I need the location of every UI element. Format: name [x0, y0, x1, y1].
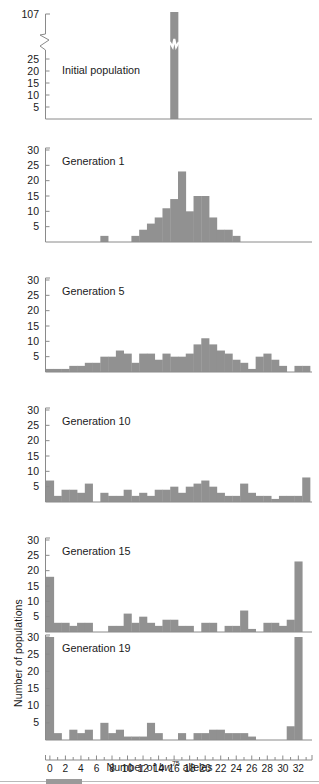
y-tick-label: 30 — [27, 274, 39, 286]
chart-panel-2: 51015202530Generation 5 — [0, 268, 319, 394]
y-tick-label: 25 — [27, 289, 39, 301]
bar — [201, 338, 209, 372]
bar — [201, 733, 209, 740]
y-tick-label: 5 — [33, 610, 39, 622]
y-tick-label: 30 — [27, 631, 39, 643]
y-tick-label: 15 — [27, 682, 39, 694]
bar — [232, 360, 240, 372]
bar — [232, 236, 240, 242]
bar — [240, 733, 248, 740]
bar — [294, 366, 302, 372]
bar — [116, 351, 124, 372]
bar — [194, 733, 202, 740]
bar — [209, 730, 217, 740]
bar — [108, 496, 116, 502]
bar — [217, 730, 225, 740]
bar — [147, 224, 155, 242]
bar — [69, 490, 77, 502]
y-tick-label-top: 107 — [21, 8, 39, 20]
bar — [194, 344, 202, 372]
bar — [240, 484, 248, 502]
bar — [225, 496, 233, 502]
y-tick-label: 30 — [27, 404, 39, 416]
bar — [100, 236, 108, 242]
bar — [77, 366, 85, 372]
bar-group — [170, 12, 178, 119]
bar — [116, 730, 124, 740]
bar — [170, 12, 178, 119]
bar — [139, 354, 147, 372]
bar — [69, 730, 77, 740]
y-tick-label: 20 — [27, 564, 39, 576]
y-tick-label: 10 — [27, 89, 39, 101]
y-tick-label: 20 — [27, 434, 39, 446]
bar — [271, 360, 279, 372]
bar — [178, 357, 186, 372]
bar — [294, 496, 302, 502]
bar — [162, 208, 170, 242]
x-axis-title: Number of bw75 alleles — [0, 760, 319, 773]
y-tick-label: 10 — [27, 335, 39, 347]
y-tick-label: 25 — [27, 648, 39, 660]
bar — [93, 363, 101, 372]
y-tick-label: 25 — [27, 419, 39, 431]
bar-group — [100, 171, 240, 242]
bar-group — [46, 477, 310, 502]
bar — [162, 354, 170, 372]
bar — [139, 230, 147, 242]
bar — [217, 230, 225, 242]
bar — [69, 366, 77, 372]
chart-plot-3: 51015202530Generation 10 — [0, 398, 319, 524]
bar — [108, 357, 116, 372]
bar — [147, 723, 155, 740]
y-tick-label: 20 — [27, 65, 39, 77]
bar — [170, 357, 178, 372]
scrollbar-thumb[interactable] — [46, 779, 82, 784]
x-axis-title-post: alleles — [180, 761, 213, 773]
horizontal-scrollbar[interactable] — [0, 779, 319, 784]
bar — [302, 477, 310, 502]
bar — [100, 723, 108, 740]
bar — [201, 196, 209, 242]
panel-title: Generation 19 — [62, 642, 130, 654]
panel-title: Generation 1 — [62, 155, 124, 167]
y-tick-label: 25 — [27, 549, 39, 561]
bar — [155, 490, 163, 502]
bar — [147, 354, 155, 372]
bar — [147, 496, 155, 502]
y-tick-label: 5 — [33, 220, 39, 232]
bar — [155, 733, 163, 740]
bar — [54, 733, 62, 740]
bar — [124, 737, 132, 740]
bar — [178, 493, 186, 502]
panel-title: Generation 10 — [62, 415, 130, 427]
y-tick-label: 5 — [33, 350, 39, 362]
bar — [232, 496, 240, 502]
y-tick-label: 5 — [33, 101, 39, 113]
bar — [263, 354, 271, 372]
bar — [139, 737, 147, 740]
y-axis-title: Number of populations — [12, 588, 26, 718]
bar — [302, 366, 310, 372]
bar — [54, 496, 62, 502]
chart-plot-2: 51015202530Generation 5 — [0, 268, 319, 394]
bar — [209, 217, 217, 242]
bar — [225, 354, 233, 372]
y-tick-label: 10 — [27, 465, 39, 477]
bar — [186, 354, 194, 372]
bar — [263, 496, 271, 502]
bar — [85, 363, 93, 372]
bar — [232, 733, 240, 740]
bar — [209, 344, 217, 372]
bar — [155, 360, 163, 372]
bar — [287, 496, 295, 502]
bar — [100, 493, 108, 502]
y-tick-label: 15 — [27, 320, 39, 332]
y-tick-label: 30 — [27, 144, 39, 156]
bar — [77, 733, 85, 740]
bar — [294, 561, 302, 632]
bar — [124, 354, 132, 372]
y-tick-label: 15 — [27, 190, 39, 202]
bar — [100, 357, 108, 372]
chart-panel-0: 107510152025Initial population — [0, 4, 319, 136]
